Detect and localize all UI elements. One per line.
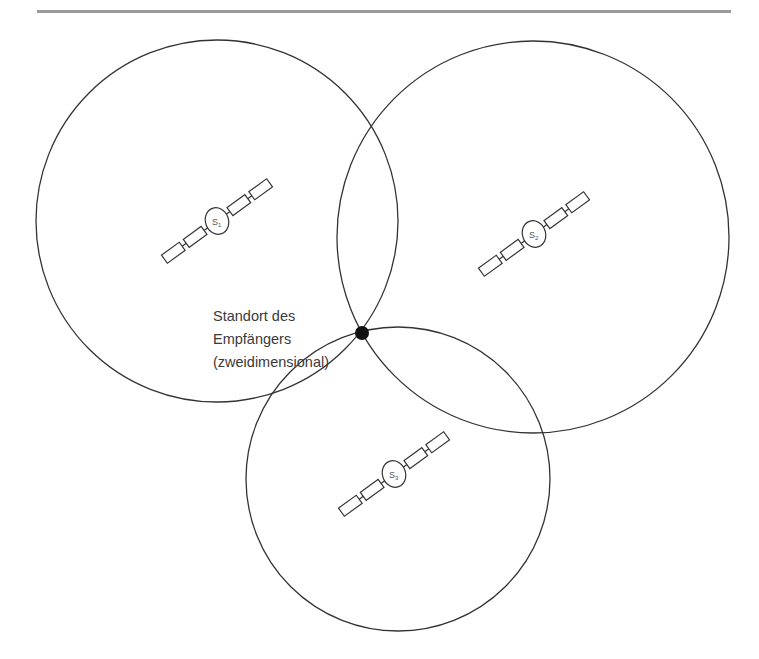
receiver-position-dot	[355, 326, 369, 340]
receiver-label-line-3: (zweidimensional)	[213, 351, 329, 374]
satellite-s2-icon: S2	[478, 192, 589, 277]
receiver-location-label: Standort des Empfängers (zweidimensional…	[213, 305, 329, 374]
receiver-label-line-2: Empfängers	[213, 328, 329, 351]
trilateration-diagram: S1 S2 S3	[0, 0, 759, 659]
receiver-label-line-1: Standort des	[213, 305, 329, 328]
satellite-s1-icon: S1	[161, 179, 272, 264]
satellite-s3-icon: S3	[338, 432, 449, 517]
